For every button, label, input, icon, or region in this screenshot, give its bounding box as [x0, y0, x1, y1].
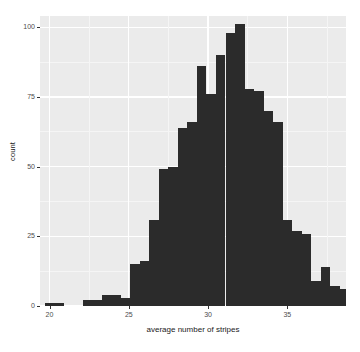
- x-axis-tick: [129, 306, 130, 309]
- histogram-bar: [330, 286, 340, 306]
- histogram-bar: [111, 295, 121, 306]
- histogram-bar: [245, 89, 255, 307]
- x-axis-tick: [208, 306, 209, 309]
- histogram-bar: [216, 55, 226, 306]
- x-axis-tick: [50, 306, 51, 309]
- y-axis-tick-label: 50: [5, 163, 35, 170]
- histogram-bar: [178, 128, 188, 306]
- x-axis-tick: [287, 306, 288, 309]
- y-axis-tick: [37, 97, 40, 98]
- histogram-bar: [340, 289, 346, 306]
- histogram-bar: [149, 220, 159, 306]
- y-axis-tick-label: 25: [5, 232, 35, 239]
- x-axis-tick-label: 30: [193, 311, 223, 318]
- histogram-bar: [292, 231, 302, 306]
- histogram-bar: [168, 167, 178, 306]
- histogram-bar: [187, 122, 197, 306]
- histogram-bar: [197, 66, 207, 306]
- y-axis-tick-label: 100: [5, 23, 35, 30]
- histogram-bar: [54, 303, 64, 306]
- y-axis-tick: [37, 306, 40, 307]
- histogram-bar: [83, 300, 93, 306]
- histogram-bar: [226, 33, 236, 306]
- histogram-bar: [102, 295, 112, 306]
- histogram-bar: [206, 94, 216, 306]
- y-axis-tick: [37, 167, 40, 168]
- histogram-bar: [235, 24, 245, 306]
- histogram-bar: [321, 267, 331, 306]
- y-axis-tick-label: 0: [5, 302, 35, 309]
- plot-panel: [40, 16, 346, 306]
- histogram-bar: [159, 169, 169, 306]
- histogram-bar: [121, 298, 131, 306]
- y-axis-tick: [37, 27, 40, 28]
- x-axis-tick-label: 25: [114, 311, 144, 318]
- histogram-bar: [311, 281, 321, 306]
- histogram-bars: [40, 16, 346, 306]
- x-axis-tick-label: 20: [35, 311, 65, 318]
- x-axis-tick-label: 35: [272, 311, 302, 318]
- histogram-bar: [254, 91, 264, 306]
- histogram-bar: [140, 261, 150, 306]
- histogram-bar: [283, 220, 293, 306]
- y-axis-title: count: [8, 122, 17, 182]
- histogram-bar: [273, 122, 283, 306]
- histogram-bar: [130, 264, 140, 306]
- histogram-figure: count 0255075100 20253035 average number…: [0, 0, 360, 352]
- x-axis-title: average number of stripes: [40, 325, 346, 334]
- histogram-bar: [92, 300, 102, 306]
- y-axis-tick: [37, 236, 40, 237]
- histogram-bar: [302, 234, 312, 307]
- y-axis-tick-label: 75: [5, 93, 35, 100]
- histogram-bar: [264, 111, 274, 306]
